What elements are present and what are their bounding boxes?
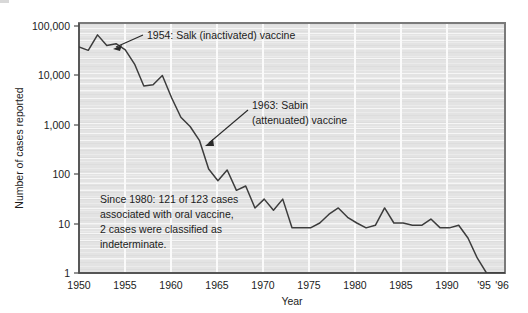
x-tick-label: 1990 [435,279,459,291]
y-tick-label: 100 [52,168,70,180]
x-tick-label: 1980 [343,279,367,291]
x-tick-label: 1950 [67,279,91,291]
y-tick-label: 100,000 [32,20,70,32]
x-tick-label: 1955 [113,279,137,291]
x-tick-label: 1965 [205,279,229,291]
x-tick-label: 1970 [251,279,275,291]
chart-figure: 100,000 10,000 1,000 100 10 1 Number of … [0,0,528,313]
y-tick-label: 10,000 [38,69,70,81]
y-tick-label: 10 [58,218,70,230]
x-tick-label: '95 [477,279,491,291]
y-tick-labels: 100,000 10,000 1,000 100 10 1 [32,20,70,279]
y-tick-marks [74,26,79,273]
note-line: Since 1980: 121 of 123 cases [100,193,238,205]
y-tick-label: 1,000 [44,119,70,131]
x-tick-label: '96 [495,279,509,291]
y-tick-label: 1 [64,267,70,279]
y-axis-title: Number of cases reported [13,87,25,209]
annotation-sabin-label-line1: 1963: Sabin [252,99,308,111]
note-line: associated with oral vaccine, [100,208,234,220]
annotation-salk-label: 1954: Salk (inactivated) vaccine [147,29,295,41]
x-tick-label: 1960 [159,279,183,291]
x-axis-title: Year [281,295,303,307]
annotation-sabin-label-line2: (attenuated) vaccine [252,114,347,126]
note-line: indeterminate. [100,238,167,250]
x-tick-labels: 1950 1955 1960 1965 1970 1975 1980 1985 … [67,279,509,291]
x-tick-label: 1985 [389,279,413,291]
note-line: 2 cases were classified as [100,223,222,235]
polio-cases-line-chart: 100,000 10,000 1,000 100 10 1 Number of … [0,0,528,313]
x-tick-label: 1975 [297,279,321,291]
